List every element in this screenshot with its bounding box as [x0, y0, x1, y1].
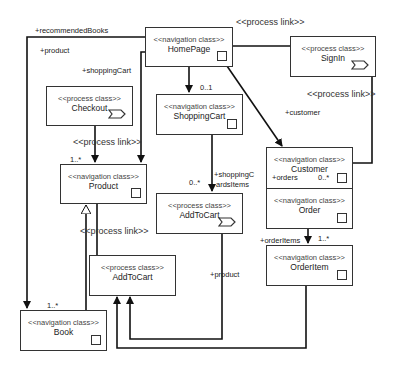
node-checkout[interactable]: <<process class>> Checkout: [46, 86, 133, 126]
label-orders-role: +orders: [272, 173, 298, 182]
label-product-role-bottom: +product: [210, 270, 239, 279]
class-name: AddToCart: [90, 272, 175, 283]
process-link-label-top: <<process link>>: [236, 17, 305, 27]
stereotype-label: <<navigation class>>: [267, 196, 352, 205]
process-link-label-product-addtocart: <<process link>>: [80, 226, 149, 236]
label-mult-0-star-cartitems: 0..*: [189, 178, 200, 187]
navigation-class-icon: [227, 119, 237, 129]
edge-homepage-product: [141, 52, 145, 162]
stereotype-label: <<navigation class>>: [267, 253, 352, 262]
node-book[interactable]: <<navigation class>> Book: [20, 310, 107, 351]
stereotype-label: <<navigation class>>: [157, 102, 242, 111]
stereotype-label: <<process class>>: [47, 94, 132, 103]
stereotype-label: <<process class>>: [291, 44, 375, 53]
node-addtocart-cart[interactable]: <<process class>> AddToCart: [156, 193, 243, 234]
process-link-label-signin-customer: <<process link>>: [307, 89, 376, 99]
node-orderitem[interactable]: <<navigation class>> OrderItem: [266, 245, 353, 286]
process-class-icon: [351, 60, 369, 70]
label-recommended-books: +recommendedBooks: [35, 26, 108, 35]
label-shopping-cart-items-2: ardsItems: [216, 180, 249, 189]
process-link-label-checkout-product: <<process link>>: [73, 137, 142, 147]
stereotype-label: <<navigation class>>: [267, 155, 352, 164]
node-customer[interactable]: <<navigation class>> Customer: [266, 147, 353, 189]
label-shopping-cart-role: +shoppingCart: [82, 66, 131, 75]
node-homepage[interactable]: <<navigation class>> HomePage: [145, 27, 233, 67]
navigation-class-icon: [91, 335, 101, 345]
navigation-class-icon: [337, 213, 347, 223]
navigation-class-icon: [131, 188, 141, 198]
label-shopping-cart-items-1: +shoppingC: [214, 170, 254, 179]
node-shoppingcart[interactable]: <<navigation class>> ShoppingCart: [156, 94, 243, 135]
node-addtocart-product[interactable]: <<process class>> AddToCart: [89, 255, 176, 296]
navigation-class-icon: [337, 173, 347, 183]
node-signin[interactable]: <<process class>> SignIn: [290, 36, 376, 77]
label-mult-1-star-book: 1..*: [47, 301, 58, 310]
stereotype-label: <<process class>>: [90, 263, 175, 272]
process-class-icon: [218, 217, 236, 227]
label-mult-1-star-orderitems: 1..*: [318, 234, 329, 243]
label-mult-0-star-orders: 0..*: [318, 173, 329, 182]
navigation-class-icon: [217, 51, 227, 61]
stereotype-label: <<navigation class>>: [21, 318, 106, 327]
label-product-role: +product: [40, 46, 69, 55]
stereotype-label: <<process class>>: [157, 201, 242, 210]
label-order-items-role: +orderItems: [260, 236, 300, 245]
label-customer-role: +customer: [285, 108, 320, 117]
stereotype-label: <<navigation class>>: [61, 172, 146, 181]
node-order[interactable]: <<navigation class>> Order: [266, 188, 353, 229]
process-class-icon: [108, 109, 126, 119]
label-mult-1-star-product: 1..*: [70, 155, 81, 164]
navigation-class-icon: [337, 270, 347, 280]
stereotype-label: <<navigation class>>: [146, 35, 232, 44]
node-product[interactable]: <<navigation class>> Product: [60, 164, 147, 204]
label-mult-0-1: 0..1: [200, 83, 213, 92]
